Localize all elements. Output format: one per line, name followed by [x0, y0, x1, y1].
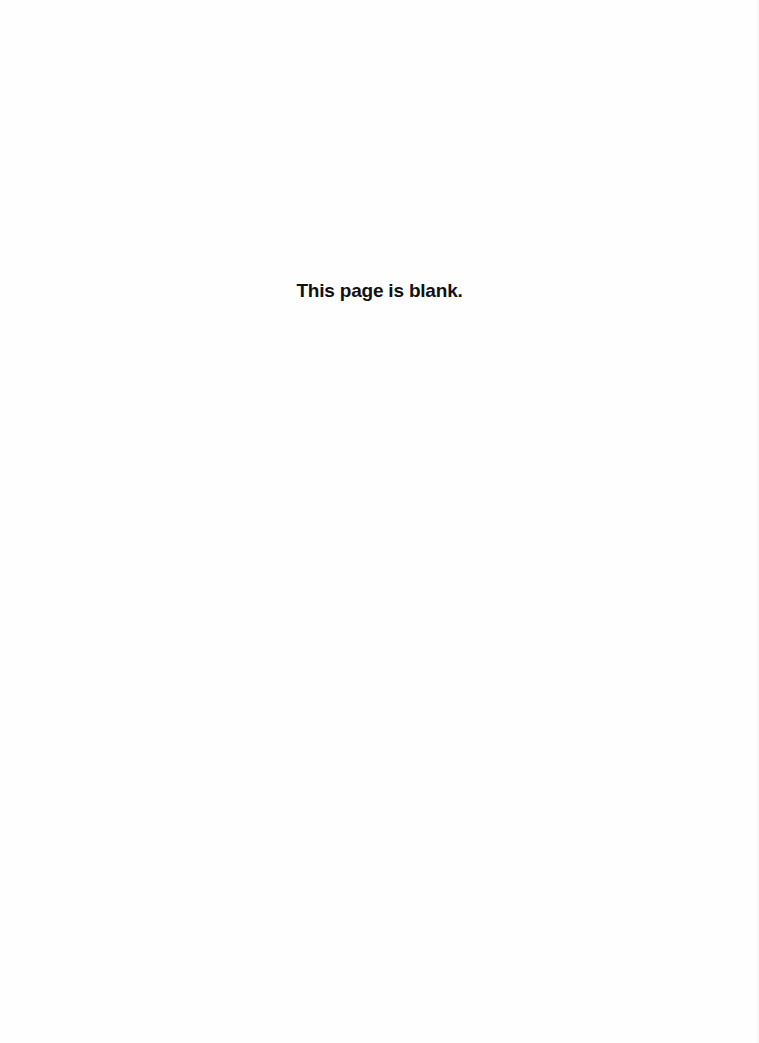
blank-page: This page is blank. [0, 0, 759, 1043]
blank-page-notice: This page is blank. [0, 275, 759, 307]
